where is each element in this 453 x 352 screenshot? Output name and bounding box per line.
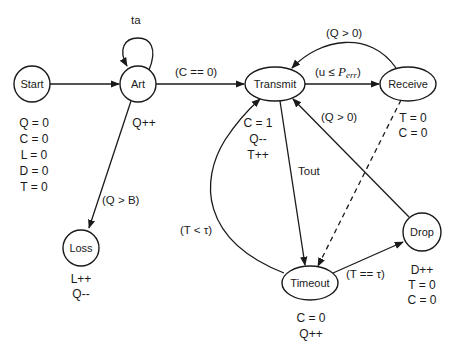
- svg-text:D = 0: D = 0: [19, 164, 48, 178]
- svg-text:Q++: Q++: [132, 116, 155, 130]
- node-drop: Drop D++ T = 0 C = 0: [403, 213, 441, 307]
- node-transmit: Transmit C = 1 Q-- T++: [243, 67, 305, 162]
- edge-label-q-gt-0-top: (Q > 0): [326, 27, 362, 39]
- edge-label-c-eq-0: (C == 0): [175, 66, 217, 78]
- edge-label-ta: ta: [131, 14, 141, 26]
- edge-transmit-timeout: Tout: [280, 101, 321, 265]
- state-diagram: ta (C == 0) (Q > B) (u ≤ Perr) (Q > 0) T…: [0, 0, 453, 352]
- svg-text:L++: L++: [71, 272, 92, 286]
- svg-text:Q++: Q++: [299, 327, 322, 341]
- svg-text:C = 0: C = 0: [19, 132, 48, 146]
- edge-art-transmit: (C == 0): [156, 66, 244, 84]
- svg-text:C = 0: C = 0: [398, 126, 427, 140]
- node-timeout: Timeout C = 0 Q++: [282, 266, 338, 341]
- edge-label-tout: Tout: [298, 165, 321, 177]
- node-start: Start Q = 0 C = 0 L = 0 D = 0 T = 0: [14, 66, 50, 194]
- svg-text:Loss: Loss: [69, 242, 93, 254]
- edge-label-t-eq-tau: (T == τ): [346, 268, 385, 280]
- svg-text:Receive: Receive: [388, 78, 428, 90]
- svg-text:Timeout: Timeout: [290, 277, 329, 289]
- edge-label-u-le-perr: (u ≤ Perr): [315, 64, 361, 80]
- svg-text:Q = 0: Q = 0: [19, 116, 49, 130]
- svg-text:L = 0: L = 0: [21, 148, 48, 162]
- svg-text:C = 0: C = 0: [296, 311, 325, 325]
- svg-text:T = 0: T = 0: [408, 278, 436, 292]
- svg-text:C = 1: C = 1: [243, 116, 272, 130]
- svg-text:C = 0: C = 0: [407, 293, 436, 307]
- node-art: Art Q++: [120, 66, 156, 130]
- svg-text:T++: T++: [247, 148, 268, 162]
- svg-text:T = 0: T = 0: [399, 111, 427, 125]
- edge-art-self-loop: ta: [123, 14, 153, 70]
- svg-text:Q--: Q--: [72, 287, 89, 301]
- node-receive: Receive T = 0 C = 0: [380, 67, 436, 140]
- svg-text:Q--: Q--: [249, 132, 266, 146]
- edge-receive-transmit: (Q > 0): [292, 27, 396, 68]
- svg-text:Start: Start: [20, 78, 43, 90]
- edge-label-q-gt-0-mid: (Q > 0): [321, 111, 357, 123]
- svg-text:T = 0: T = 0: [20, 180, 48, 194]
- svg-text:Transmit: Transmit: [254, 78, 296, 90]
- edge-label-t-lt-tau: (T < τ): [180, 224, 212, 236]
- edge-timeout-drop: (T == τ): [333, 242, 403, 280]
- edge-transmit-receive: (u ≤ Perr): [305, 64, 379, 84]
- svg-text:Art: Art: [131, 78, 145, 90]
- node-loss: Loss L++ Q--: [63, 230, 99, 301]
- svg-text:Drop: Drop: [410, 226, 434, 238]
- edge-receive-timeout: [318, 100, 401, 266]
- svg-text:D++: D++: [411, 263, 434, 277]
- edge-label-q-gt-b: (Q > B): [102, 194, 140, 206]
